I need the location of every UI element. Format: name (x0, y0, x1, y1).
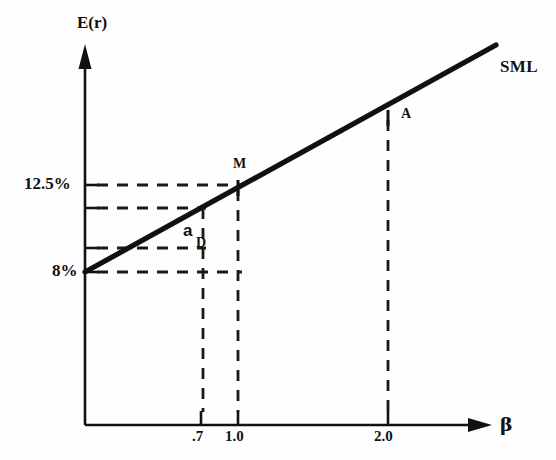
x-axis-ticks (201, 411, 388, 425)
x-axis (85, 418, 492, 432)
x-axis-title: β (500, 415, 513, 434)
point-markers (238, 110, 388, 196)
point-label-d: D (196, 236, 206, 250)
sml-series-label: SML (500, 58, 538, 75)
y-axis (79, 44, 92, 425)
y-axis-ticks (85, 185, 99, 272)
y-tick-label-8: 8% (52, 262, 78, 279)
point-label-a: A (401, 107, 411, 121)
sml-line (85, 45, 496, 272)
x-tick-label-0-7: .7 (192, 429, 203, 444)
x-tick-label-1-0: 1.0 (225, 429, 244, 444)
point-label-m: M (233, 157, 246, 171)
chart-canvas (0, 0, 556, 460)
y-axis-title: E(r) (77, 14, 107, 31)
vertical-reference-lines (203, 120, 388, 412)
point-label-alpha: a (183, 222, 192, 239)
x-tick-label-2-0: 2.0 (374, 429, 393, 444)
y-tick-label-12-5: 12.5% (24, 175, 71, 192)
sml-chart-figure: E(r) β SML 12.5% 8% .7 1.0 2.0 M A a D (0, 0, 556, 460)
